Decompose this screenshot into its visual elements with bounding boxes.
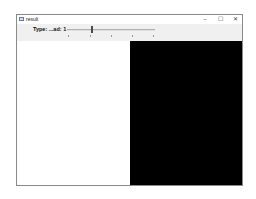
- trackbar-panel: Type: ...ad: 1: [17, 24, 242, 41]
- app-window: result – ☐ ✕ Type: ...ad: 1: [16, 14, 243, 186]
- title-bar[interactable]: result – ☐ ✕: [17, 15, 242, 24]
- black-region: [130, 41, 242, 185]
- slider-tick: [153, 35, 154, 37]
- slider-thumb[interactable]: [91, 26, 93, 33]
- app-icon: [19, 17, 24, 21]
- slider-tick: [111, 35, 112, 37]
- slider-tick: [90, 35, 91, 37]
- slider-tick: [132, 35, 133, 37]
- slider-tick: [68, 35, 69, 37]
- maximize-button[interactable]: ☐: [213, 15, 227, 24]
- close-button[interactable]: ✕: [228, 15, 242, 24]
- image-canvas: [17, 41, 242, 185]
- slider-label: Type: ...ad: 1: [33, 26, 66, 33]
- white-region: [17, 41, 130, 185]
- slider-track[interactable]: [67, 29, 155, 31]
- minimize-button[interactable]: –: [198, 15, 212, 24]
- window-title: result: [26, 15, 38, 24]
